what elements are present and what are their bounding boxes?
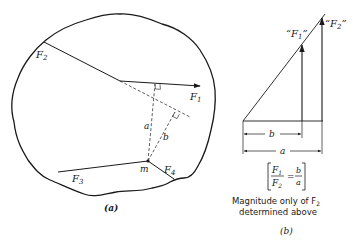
dimension-b-label: b [269, 129, 275, 139]
caption-b: (b) [280, 226, 293, 236]
note-line-1: Magnitude only of F2 [232, 196, 320, 207]
label-m: m [140, 164, 149, 174]
rigid-body-outline [12, 14, 215, 196]
panel-b: b a “F1” “F2” F1 F2 = b a Magnitude only… [232, 14, 347, 236]
eq-num-b: b [296, 166, 301, 175]
note-line-2: determined above [239, 207, 317, 217]
force-f3-line [58, 161, 148, 172]
eq-equals: = [287, 171, 295, 181]
eq-den-a: a [296, 178, 301, 187]
label-b: b [163, 132, 169, 142]
hypotenuse-line [243, 14, 325, 121]
figure-canvas: F2 F1 F3 F4 m a b (a) b a “F1” “F2” [0, 0, 353, 246]
caption-a: (a) [104, 203, 118, 213]
dimension-a-label: a [280, 146, 285, 156]
right-angle-a-icon [155, 84, 160, 89]
eq-num-f1: F1 [271, 165, 282, 176]
label-f1: F1 [189, 91, 201, 104]
label-f2-quoted: “F2” [325, 18, 347, 31]
label-f1-quoted: “F1” [286, 28, 308, 41]
label-f4: F4 [163, 164, 175, 177]
ratio-equation: F1 F2 = b a [268, 163, 305, 190]
label-a: a [144, 121, 149, 131]
point-m [146, 159, 149, 162]
panel-a: F2 F1 F3 F4 m a b (a) [12, 14, 215, 213]
label-f3: F3 [71, 173, 84, 186]
eq-den-f2: F2 [271, 178, 282, 189]
force-f2-line [44, 42, 120, 81]
label-f2: F2 [35, 49, 48, 62]
